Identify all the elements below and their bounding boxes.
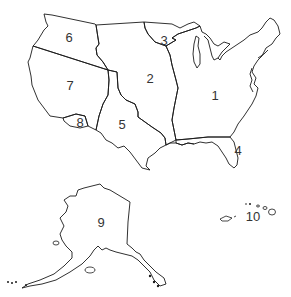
gulf-coast-outline: [166, 143, 194, 145]
region-label-2: 2: [146, 71, 153, 86]
region-4-outline[interactable]: [176, 137, 238, 168]
region-label-5: 5: [118, 117, 125, 132]
kodiak-island: [85, 267, 95, 273]
region-label-8: 8: [76, 115, 83, 130]
aleutian-island-4: [25, 284, 27, 286]
region-1-outline[interactable]: [166, 18, 280, 140]
aleutian-island-3: [7, 281, 9, 283]
region-label-3: 3: [160, 33, 167, 48]
niihau-island: [245, 203, 247, 205]
region-label-7: 7: [66, 78, 73, 93]
lake-michigan-outline: [193, 36, 200, 68]
us-regions-map: 1 2 3 4 5 6 7 8 9 10: [0, 0, 291, 297]
nunivak-island: [53, 241, 59, 245]
panhandle-island-1: [149, 275, 151, 277]
region-label-6: 6: [65, 30, 72, 45]
region-5-outline[interactable]: [96, 70, 166, 170]
aleutian-island-1: [15, 281, 17, 283]
region-label-4: 4: [234, 143, 241, 158]
nw-hawaii-islands: [220, 216, 236, 221]
region-label-10: 10: [246, 209, 260, 224]
maui-island: [263, 207, 267, 210]
region-label-1: 1: [211, 88, 218, 103]
aleutian-island-2: [11, 282, 13, 284]
panhandle-island-2: [153, 281, 155, 283]
hawaii-big-island: [269, 209, 276, 215]
panhandle-island-3: [157, 285, 159, 287]
oahu-island: [257, 205, 260, 207]
kauai-island: [249, 203, 251, 205]
region-label-9: 9: [97, 215, 104, 230]
